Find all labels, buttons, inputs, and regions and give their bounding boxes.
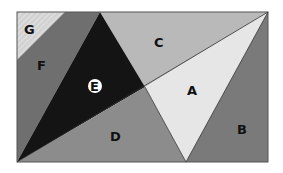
- label-d: D: [110, 129, 121, 144]
- label-b: B: [237, 122, 247, 137]
- label-e: E: [90, 79, 99, 94]
- geometric-diagram: G F C E A D B: [0, 0, 283, 173]
- label-f: F: [37, 58, 46, 73]
- label-c: C: [154, 35, 164, 50]
- label-a: A: [187, 83, 197, 98]
- label-g: G: [24, 22, 35, 37]
